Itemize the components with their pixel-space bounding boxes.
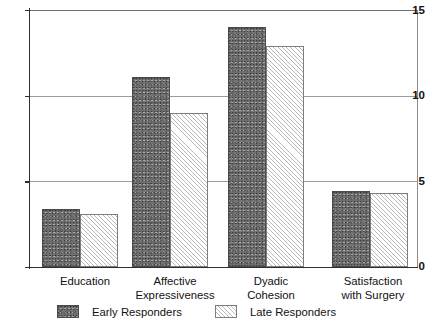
- y-tick-mark-5: [25, 181, 30, 182]
- y-tick-mark-15: [25, 10, 30, 11]
- category-label-dyadic-cohesion: Dyadic Cohesion: [219, 275, 323, 302]
- legend-label-early-responders: Early Responders: [92, 306, 182, 318]
- category-label-satisfaction-with-surgery: Satisfaction with Surgery: [320, 275, 426, 302]
- bar-group-affective-expressiveness: [131, 10, 219, 267]
- y-tick-mark-10: [25, 96, 30, 97]
- category-label-line: with Surgery: [320, 289, 426, 303]
- legend-swatch-late-responders: [215, 305, 237, 318]
- category-label-line: Expressiveness: [120, 289, 230, 303]
- category-label-line: Satisfaction: [320, 275, 426, 289]
- bar-late-education: [80, 214, 118, 267]
- chart-legend: Early Responders Late Responders: [0, 305, 425, 329]
- bar-group-satisfaction-with-surgery: [331, 10, 419, 267]
- bar-early-education: [42, 209, 80, 267]
- bar-late-satisfaction-with-surgery: [370, 193, 408, 267]
- legend-label-late-responders: Late Responders: [250, 306, 336, 318]
- bar-late-affective-expressiveness: [170, 113, 208, 267]
- category-label-affective-expressiveness: Affective Expressiveness: [120, 275, 230, 302]
- bar-group-dyadic-cohesion: [227, 10, 315, 267]
- legend-item-late-responders: Late Responders: [215, 305, 336, 318]
- bar-group-education: [41, 10, 129, 267]
- legend-swatch-early-responders: [57, 305, 79, 318]
- category-label-line: Cohesion: [219, 289, 323, 303]
- bar-early-satisfaction-with-surgery: [332, 191, 370, 266]
- y-tick-mark-0: [25, 267, 30, 268]
- category-label-line: Affective: [120, 275, 230, 289]
- bar-early-dyadic-cohesion: [228, 27, 266, 266]
- category-label-line: Dyadic: [219, 275, 323, 289]
- y-axis-line: [29, 8, 30, 269]
- bar-late-dyadic-cohesion: [266, 46, 304, 267]
- legend-item-early-responders: Early Responders: [57, 305, 182, 318]
- x-axis-line: [29, 267, 418, 268]
- bar-early-affective-expressiveness: [132, 77, 170, 267]
